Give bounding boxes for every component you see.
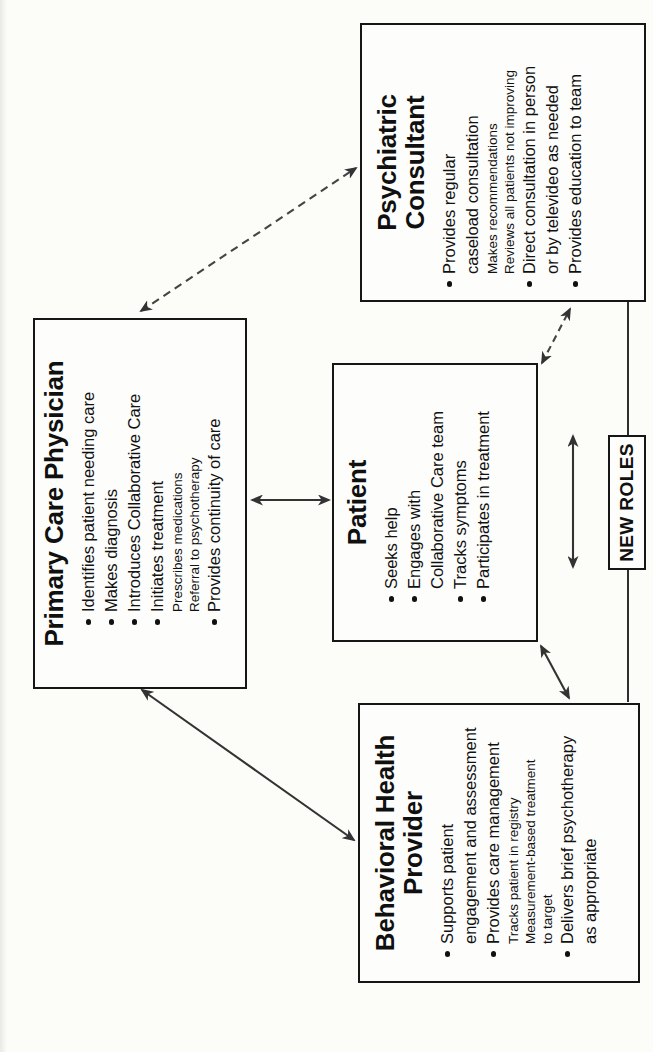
list-item: Identifies patient needing care: [77, 326, 100, 625]
list-item: Tracks symptoms: [449, 371, 472, 602]
list-item-continuation: or by televideo as needed: [541, 31, 564, 287]
list-item-continuation: caseload consultation: [461, 31, 484, 287]
patient-list: Seeks help Engages with Collaborative Ca…: [380, 365, 495, 640]
list-subitem: Measurement-based treatment: [522, 711, 539, 957]
psychiatric-consultant-list: Provides regular caseload consultation M…: [438, 25, 587, 300]
list-subitem: to target: [539, 711, 556, 957]
primary-care-physician-list: Identifies patient needing care Makes di…: [77, 320, 226, 687]
list-subitem: Prescribes medications: [169, 326, 186, 625]
arrow-pcp-psychiatric: [141, 168, 356, 311]
arrow-patient-bhp: [541, 646, 569, 698]
list-item: Makes diagnosis: [100, 326, 123, 625]
arrow-patient-psychiatric: [542, 309, 570, 363]
list-item: Provides education to team: [564, 31, 587, 287]
list-subitem: Reviews all patients not improving: [501, 31, 518, 287]
list-item: Provides regular: [438, 31, 461, 287]
list-item-continuation: as appropriate: [579, 711, 602, 957]
list-subitem: Makes recommendations: [484, 31, 501, 287]
list-subitem: Tracks patient in registry: [505, 711, 522, 957]
list-subitem: Referral to psychotherapy: [186, 326, 203, 625]
diagram-page: Primary Care Physician Identifies patien…: [0, 0, 653, 1052]
box-psychiatric-consultant: Psychiatric Consultant Provides regular …: [360, 23, 646, 302]
list-item: Introduces Collaborative Care: [123, 326, 146, 625]
list-item: Delivers brief psychotherapy: [556, 711, 579, 957]
new-roles-text: NEW ROLES: [616, 443, 638, 562]
list-item: Provides continuity of care: [203, 326, 226, 625]
list-item: Engages with: [403, 371, 426, 602]
list-item-continuation: engagement and assessment: [459, 711, 482, 957]
patient-title: Patient: [334, 365, 371, 640]
list-item: Participates in treatment: [472, 371, 495, 602]
box-behavioral-health-provider: Behavioral Health Provider Supports pati…: [358, 703, 640, 983]
behavioral-health-provider-title: Behavioral Health Provider: [360, 705, 427, 981]
psychiatric-consultant-title: Psychiatric Consultant: [362, 25, 429, 300]
list-item: Initiates treatment: [146, 326, 169, 625]
new-roles-label: NEW ROLES: [608, 435, 646, 570]
scan-edge-shadow: [0, 0, 7, 1052]
arrow-pcp-bhp: [142, 690, 354, 840]
primary-care-physician-title: Primary Care Physician: [35, 320, 68, 687]
list-item-continuation: Collaborative Care team: [426, 371, 449, 602]
rotated-canvas: Primary Care Physician Identifies patien…: [0, 0, 653, 1052]
behavioral-health-provider-list: Supports patient engagement and assessme…: [436, 705, 602, 981]
list-item: Seeks help: [380, 371, 403, 602]
box-primary-care-physician: Primary Care Physician Identifies patien…: [33, 318, 247, 689]
list-item: Provides care management: [482, 711, 505, 957]
list-item: Supports patient: [436, 711, 459, 957]
list-item: Direct consultation in person: [518, 31, 541, 287]
box-patient: Patient Seeks help Engages with Collabor…: [332, 363, 538, 642]
